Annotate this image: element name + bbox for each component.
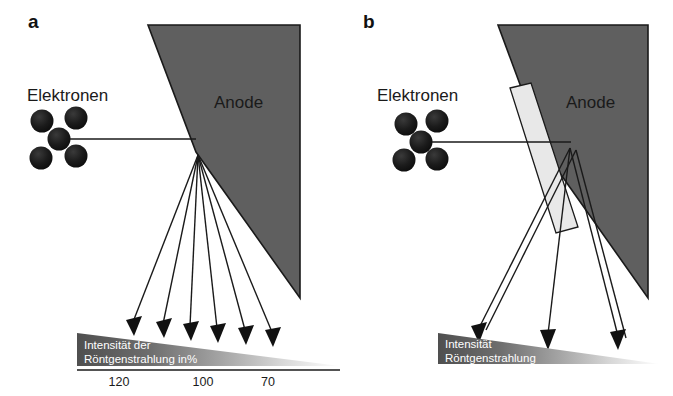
intensity-bar-line2-a: Röntgenstrahlung in%	[84, 353, 197, 365]
electron-dot	[30, 147, 53, 170]
panel-b-letter: b	[363, 11, 375, 32]
anode-label-a: Anode	[214, 93, 263, 112]
electrons-label-a: Elektronen	[27, 86, 108, 105]
electron-dot	[395, 113, 418, 136]
electron-dot	[65, 145, 88, 168]
axis-tick-120: 120	[109, 375, 130, 389]
electron-dot	[48, 128, 71, 151]
panel-a-letter: a	[28, 11, 39, 32]
axis-tick-70: 70	[261, 375, 275, 389]
electron-dot	[426, 148, 449, 171]
anode-label-b: Anode	[566, 93, 615, 112]
intensity-bar-line1-a: Intensität der	[84, 339, 151, 351]
electron-dot	[31, 110, 54, 133]
xray-anode-heel-effect-figure: a Anode Elektronen	[0, 0, 673, 396]
electrons-label-b: Elektronen	[377, 86, 458, 105]
axis-tick-100: 100	[193, 375, 214, 389]
intensity-bar-line1-b: Intensität	[445, 338, 492, 350]
intensity-bar-line2-b: Röntgenstrahlung	[445, 352, 536, 364]
electron-dot	[410, 131, 433, 154]
electron-dot	[393, 149, 416, 172]
electron-dot	[426, 110, 449, 133]
electron-dot	[65, 107, 88, 130]
